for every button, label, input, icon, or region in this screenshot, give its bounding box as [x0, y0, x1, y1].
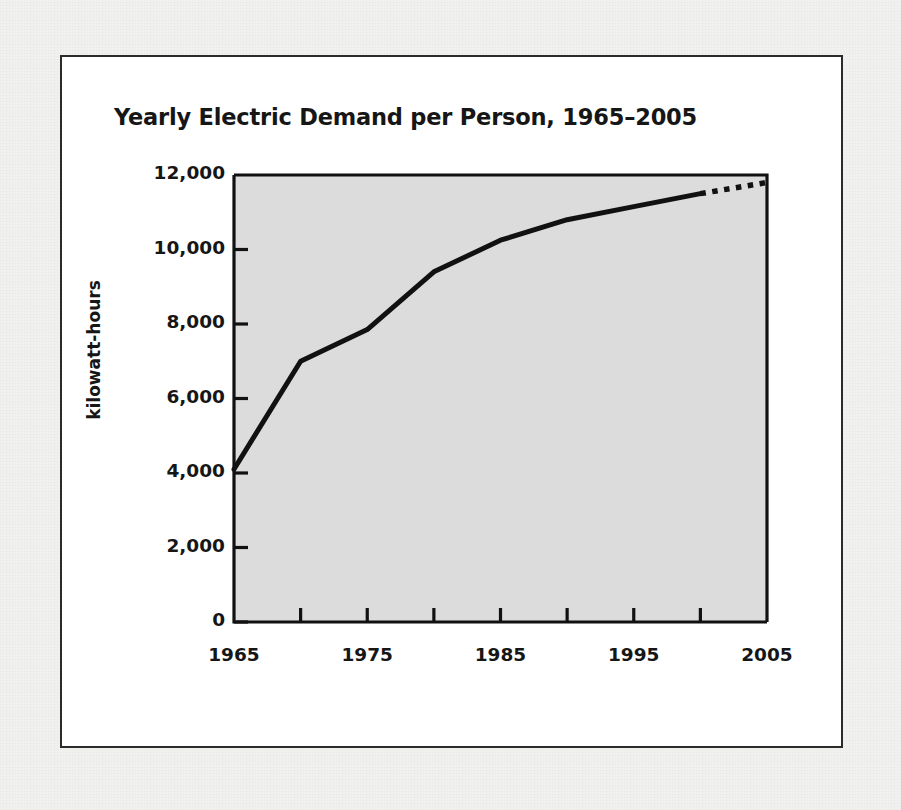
x-axis-tick-labels: 19651975198519952005 — [62, 57, 845, 750]
x-axis-tick-label: 1995 — [589, 644, 679, 665]
x-axis-tick-label: 1975 — [322, 644, 412, 665]
x-axis-tick-label: 1985 — [456, 644, 546, 665]
x-axis-tick-label: 2005 — [722, 644, 812, 665]
figure-frame: Yearly Electric Demand per Person, 1965–… — [60, 55, 843, 748]
x-axis-tick-label: 1965 — [189, 644, 279, 665]
